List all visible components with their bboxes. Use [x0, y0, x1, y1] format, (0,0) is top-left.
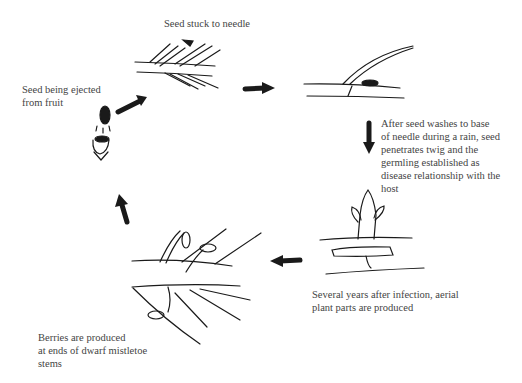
- branch-with-berries-icon: [132, 229, 261, 344]
- arrow-up-icon: [122, 205, 127, 222]
- fruit-ejecting-seed-icon: [93, 106, 110, 160]
- aerial-shoot-icon: [320, 190, 424, 274]
- label-aerial-parts: Several years after infection, aerial pl…: [312, 288, 459, 314]
- label-berries: Berries are produced at ends of dwarf mi…: [38, 331, 147, 370]
- arrow-up-right-icon: [118, 101, 140, 112]
- branch-with-seed-icon: [135, 40, 220, 89]
- label-seed-stuck: Seed stuck to needle: [164, 17, 250, 30]
- label-seed-washes: After seed washes to base of needle duri…: [381, 117, 500, 195]
- seed-at-needle-base-icon: [304, 46, 413, 98]
- label-seed-ejected: Seed being ejected from fruit: [22, 83, 101, 109]
